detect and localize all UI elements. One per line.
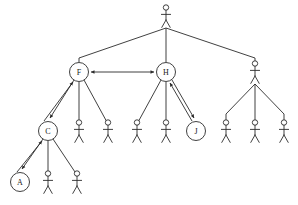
edge-a-to-c-up: [17, 141, 42, 172]
edge-h-to-j-down: [172, 80, 194, 118]
stick-figure-c-child-2[interactable]: [43, 171, 52, 194]
node-c-label: C: [45, 127, 50, 136]
node-f[interactable]: F: [70, 63, 89, 82]
edge-j-to-h-up: [170, 83, 192, 121]
edge-h-to-child-1: [137, 80, 161, 124]
edge-group-root: [79, 28, 255, 62]
stick-figure-c-child-3[interactable]: [72, 171, 81, 194]
edge-root-to-right: [166, 28, 255, 62]
edge-f-to-child-3: [84, 80, 108, 124]
edge-c-to-f-up: [44, 82, 73, 121]
node-a-label: A: [17, 178, 23, 187]
edge-root-to-f: [79, 28, 166, 62]
stick-figure-f-child-2[interactable]: [74, 120, 83, 143]
node-f-label: F: [77, 68, 82, 77]
node-a[interactable]: A: [11, 173, 30, 192]
stick-figure-right-child-1[interactable]: [221, 120, 230, 143]
edge-right-to-child-3: [255, 84, 284, 124]
stick-figure-right-child-3[interactable]: [279, 120, 288, 143]
stick-figure-h-child-2[interactable]: [161, 120, 170, 143]
edge-group-f: [44, 80, 108, 124]
edge-c-to-child-3: [53, 139, 77, 175]
stick-figure-right-child-2[interactable]: [250, 120, 259, 143]
hierarchy-diagram: F H C J A: [0, 0, 298, 205]
node-h[interactable]: H: [157, 63, 176, 82]
node-c[interactable]: C: [39, 122, 58, 141]
stick-figure-f-child-3[interactable]: [103, 120, 112, 143]
edge-right-to-child-1: [226, 84, 255, 124]
edge-group-right: [226, 84, 284, 124]
node-j[interactable]: J: [187, 122, 206, 141]
stick-figure-h-child-1[interactable]: [132, 120, 141, 143]
stick-figure-root[interactable]: [161, 5, 170, 28]
diagram-canvas: F H C J A: [0, 0, 298, 205]
stick-figure-right-manager[interactable]: [250, 61, 259, 84]
node-j-label: J: [194, 127, 197, 136]
edge-group-c: [17, 139, 77, 175]
node-h-label: H: [163, 68, 169, 77]
edge-group-h: [137, 80, 194, 124]
